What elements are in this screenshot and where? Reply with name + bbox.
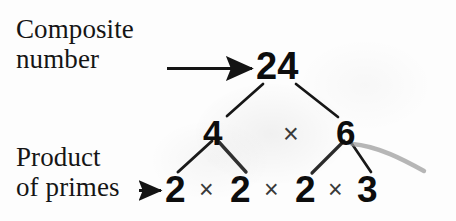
factor-tree-figure: Composite number Product of primes 24 4 …: [0, 0, 456, 221]
multiplication-sign-1: ×: [199, 175, 214, 204]
tree-node-prime-3: 2: [295, 169, 316, 211]
product-label-line1: Product: [16, 142, 120, 172]
composite-label-line2: number: [16, 44, 134, 74]
tree-node-24: 24: [256, 45, 298, 88]
tree-node-6: 6: [336, 113, 355, 153]
tree-node-4: 4: [203, 113, 222, 153]
multiplication-sign-2: ×: [264, 175, 279, 204]
branch-24-to-4: [227, 84, 263, 116]
branch-24-to-6: [296, 84, 338, 117]
tree-node-prime-4: 3: [357, 169, 378, 211]
scan-smudge: [352, 144, 424, 171]
multiplication-sign-middle: ×: [283, 119, 299, 150]
tree-node-prime-1: 2: [165, 169, 186, 211]
composite-number-label: Composite number: [16, 14, 134, 74]
scan-shading-right: [300, 40, 430, 130]
product-label-line2: of primes: [16, 172, 120, 202]
composite-label-line1: Composite: [16, 14, 134, 44]
multiplication-sign-3: ×: [328, 175, 343, 204]
tree-node-prime-2: 2: [230, 169, 251, 211]
product-of-primes-label: Product of primes: [16, 142, 120, 202]
